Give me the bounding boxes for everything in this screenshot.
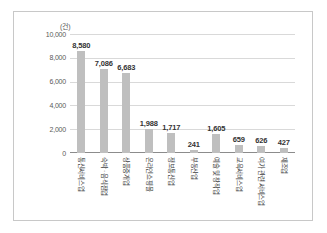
bar-value-label: 427 bbox=[278, 139, 290, 147]
bar-slot[interactable]: 626 bbox=[250, 34, 273, 153]
bar-value-label: 626 bbox=[255, 137, 267, 145]
plot-area: 02,0004,0006,0008,00010,000 8,5807,0866,… bbox=[70, 34, 295, 153]
bar-slot[interactable]: 8,580 bbox=[70, 34, 93, 153]
bar[interactable] bbox=[145, 129, 153, 153]
x-axis-category-label: 부동산업 bbox=[190, 157, 197, 180]
bar-value-label: 1,605 bbox=[207, 125, 225, 133]
x-axis-category-label: 제조업 bbox=[280, 157, 287, 174]
x-axis-category-label: 숙박 · 음식점업 bbox=[100, 157, 107, 196]
y-axis-tick-label: 2,000 bbox=[20, 126, 66, 133]
x-axis-category-label: 통신서비스업 bbox=[78, 157, 85, 191]
bar[interactable] bbox=[122, 73, 130, 153]
bar-slot[interactable]: 241 bbox=[183, 34, 206, 153]
bar-slot[interactable]: 1,717 bbox=[160, 34, 183, 153]
bar[interactable] bbox=[280, 148, 288, 153]
bar-slot[interactable]: 7,086 bbox=[93, 34, 116, 153]
bar[interactable] bbox=[257, 146, 265, 153]
bar-value-label: 1,717 bbox=[162, 124, 180, 132]
bar[interactable] bbox=[167, 133, 175, 153]
x-axis-category-label: 예술 및 창작업 bbox=[213, 157, 220, 194]
y-axis-tick-label: 0 bbox=[20, 150, 66, 157]
bar[interactable] bbox=[235, 145, 243, 153]
bar-slot[interactable]: 659 bbox=[228, 34, 251, 153]
bar-value-label: 659 bbox=[233, 136, 245, 144]
bar-value-label: 7,086 bbox=[95, 60, 113, 68]
y-axis-unit-label: (건) bbox=[60, 23, 71, 30]
y-axis-tick-label: 10,000 bbox=[20, 31, 66, 38]
bar-slot[interactable]: 1,988 bbox=[138, 34, 161, 153]
bar[interactable] bbox=[77, 51, 85, 153]
bar-value-label: 8,580 bbox=[72, 42, 90, 50]
chart-frame: (건) 02,0004,0006,0008,00010,000 8,5807,0… bbox=[13, 11, 313, 221]
y-axis-tick-label: 6,000 bbox=[20, 78, 66, 85]
y-axis-tick-label: 4,000 bbox=[20, 102, 66, 109]
bar[interactable] bbox=[100, 69, 108, 153]
x-axis-category-label: 교육서비스업 bbox=[235, 157, 242, 191]
bar-slot[interactable]: 427 bbox=[273, 34, 296, 153]
bar[interactable] bbox=[212, 134, 220, 153]
y-axis-tick-label: 8,000 bbox=[20, 54, 66, 61]
bar-value-label: 241 bbox=[188, 141, 200, 149]
x-axis-category-label: 정보통신업 bbox=[168, 157, 175, 186]
bar-slot[interactable]: 1,605 bbox=[205, 34, 228, 153]
x-axis-category-label: 상품중개업 bbox=[123, 157, 130, 186]
bar-value-label: 1,988 bbox=[140, 120, 158, 128]
bar-slot[interactable]: 6,683 bbox=[115, 34, 138, 153]
bar[interactable] bbox=[190, 150, 198, 153]
x-axis-category-label: 여가 관련 서비스업 bbox=[258, 157, 265, 206]
bar-value-label: 6,683 bbox=[117, 64, 135, 72]
x-axis-category-label: 온라인쇼핑몰 bbox=[145, 157, 152, 191]
